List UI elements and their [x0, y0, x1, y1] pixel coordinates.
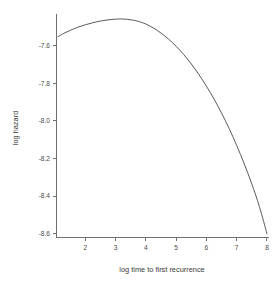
x-tick-label: 8 [265, 244, 269, 251]
x-tick-label: 7 [235, 244, 239, 251]
x-tick-label: 4 [144, 244, 148, 251]
y-tick-label: -8.4 [39, 192, 51, 199]
y-tick-label: -8.2 [39, 155, 51, 162]
y-tick-label: -7.8 [39, 80, 51, 87]
y-axis: -7.6-7.8-8.0-8.2-8.4-8.6 [39, 14, 57, 238]
y-tick-label: -8.0 [39, 117, 51, 124]
hazard-chart: -7.6-7.8-8.0-8.2-8.4-8.6 2345678 log tim… [0, 0, 280, 282]
x-tick-label: 2 [83, 244, 87, 251]
series-group [58, 19, 267, 234]
plot-svg: -7.6-7.8-8.0-8.2-8.4-8.6 2345678 log tim… [0, 0, 280, 282]
x-tick-group: 2345678 [83, 238, 269, 251]
y-tick-label: -8.6 [39, 230, 51, 237]
y-axis-title: log hazard [11, 111, 20, 146]
x-tick-label: 3 [114, 244, 118, 251]
x-tick-label: 6 [205, 244, 209, 251]
y-tick-label: -7.6 [39, 42, 51, 49]
y-tick-group: -7.6-7.8-8.0-8.2-8.4-8.6 [39, 42, 57, 237]
x-axis-title: log time to first recurrence [119, 265, 204, 274]
x-tick-label: 5 [174, 244, 178, 251]
x-axis: 2345678 [57, 238, 270, 251]
log-hazard-curve [58, 19, 267, 234]
